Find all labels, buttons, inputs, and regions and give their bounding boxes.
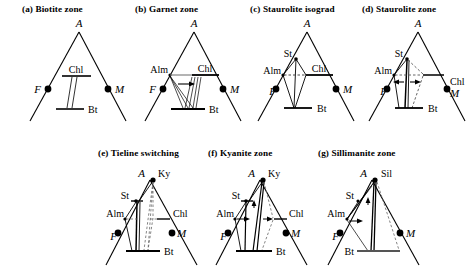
- panel-b-tag: (b): [135, 4, 149, 14]
- label-apex-a: A: [75, 17, 83, 29]
- panel-a-diagram: A F M Chl Bt: [22, 16, 132, 128]
- label-f: F: [331, 230, 339, 242]
- chl-bt-tieline: [295, 75, 306, 108]
- label-alm: Alm: [150, 64, 168, 75]
- label-apex-a: A: [414, 17, 422, 29]
- tieline: [67, 77, 72, 108]
- tieline: [170, 76, 193, 108]
- sil-point: [372, 177, 377, 182]
- panel-g-title-text: Sillimanite zone: [331, 148, 395, 158]
- label-m: M: [290, 227, 301, 239]
- tieline: [185, 77, 192, 108]
- st-bt-tieline: [405, 60, 407, 108]
- label-f: F: [109, 230, 117, 242]
- label-m: M: [405, 227, 416, 239]
- label-st: St: [232, 190, 241, 201]
- panel-e-diagram: A Ky St Alm F Chl M Bt: [98, 160, 210, 272]
- chl-bt-dashed-tieline: [262, 220, 273, 250]
- label-st: St: [395, 48, 404, 59]
- leg-right: [150, 180, 197, 265]
- reaction-arrow-left-head: [244, 217, 250, 222]
- panel-f-title: (f) Kyanite zone: [208, 148, 272, 158]
- panel-c-title-text: Staurolite isograd: [263, 4, 335, 14]
- label-m: M: [449, 87, 460, 99]
- panel-d-tag: (d): [362, 4, 376, 14]
- st-bt-tieline: [136, 202, 137, 251]
- sil-bt-tieline: [371, 182, 374, 251]
- panel-c-tag: (c): [250, 4, 263, 14]
- label-bt: Bt: [345, 246, 355, 257]
- label-apex-a: A: [247, 167, 255, 179]
- label-alm: Alm: [374, 65, 392, 76]
- st-bt-tieline: [139, 202, 140, 251]
- label-apex-a: A: [190, 17, 198, 29]
- label-chl: Chl: [69, 64, 84, 75]
- label-alm: Alm: [216, 208, 234, 219]
- panel-g-title: (g) Sillimanite zone: [318, 148, 396, 158]
- st-chl-tieline: [296, 59, 306, 75]
- label-bt: Bt: [317, 103, 327, 114]
- panel-c-diagram: A St Alm F M Chl Bt: [250, 16, 362, 128]
- label-f: F: [268, 85, 276, 97]
- label-ky: Ky: [158, 168, 170, 179]
- label-bt: Bt: [428, 103, 438, 114]
- panel-g-diagram: A Sil St Alm F M Bt: [318, 160, 438, 272]
- label-alm: Alm: [327, 208, 345, 219]
- label-bt: Bt: [164, 246, 174, 257]
- panel-d-title: (d) Staurolite zone: [362, 4, 436, 14]
- vertex-dot-m: [220, 86, 227, 93]
- reaction-arrow-left-head: [393, 79, 399, 84]
- vertex-dot-m: [105, 86, 112, 93]
- chl-bt-dashed-tieline: [148, 218, 153, 250]
- st-bt-tieline: [294, 59, 296, 108]
- label-apex-a: A: [359, 167, 367, 179]
- panel-e-title-text: Tieline switching: [111, 148, 179, 158]
- panel-e-title: (e) Tieline switching: [98, 148, 179, 158]
- label-m: M: [342, 83, 353, 95]
- label-f: F: [33, 83, 41, 95]
- label-sil: Sil: [381, 168, 392, 179]
- ky-point: [150, 177, 155, 182]
- vertex-dot-m: [283, 230, 290, 237]
- alm-bt-tieline: [125, 219, 132, 251]
- label-alm: Alm: [106, 208, 124, 219]
- label-m: M: [176, 227, 187, 239]
- alm-bt-tieline: [235, 219, 241, 251]
- label-bt: Bt: [88, 104, 98, 115]
- alm-bt-tieline: [283, 75, 294, 108]
- label-st: St: [284, 48, 293, 59]
- tieline: [72, 77, 77, 108]
- reaction-arrow-right-head: [267, 217, 273, 222]
- label-chl: Chl: [289, 208, 304, 219]
- st-alm-tieline: [394, 59, 407, 75]
- panel-f-title-text: Kyanite zone: [220, 148, 273, 158]
- label-f: F: [219, 230, 227, 242]
- ky-point: [260, 177, 265, 182]
- panel-g-tag: (g): [318, 148, 331, 158]
- ky-bt-dashed-tieline: [148, 182, 153, 250]
- tieline: [196, 77, 201, 108]
- label-f: F: [379, 85, 387, 97]
- label-chl: Chl: [173, 208, 188, 219]
- panel-d-diagram: A St Alm F Chl M Bt: [362, 16, 472, 128]
- label-bt: Bt: [276, 246, 286, 257]
- label-f: F: [148, 83, 156, 95]
- leg-right: [307, 32, 354, 121]
- label-chl: Chl: [450, 76, 465, 87]
- ky-st-tieline: [139, 181, 153, 201]
- sil-bt-tieline: [374, 182, 376, 251]
- sil-m-dashed-tieline: [377, 182, 399, 250]
- label-ky: Ky: [268, 168, 280, 179]
- label-chl: Chl: [198, 63, 213, 74]
- st-bt-tieline: [408, 60, 409, 108]
- tieline: [170, 76, 188, 108]
- reaction-arrow-st-head: [366, 197, 371, 203]
- label-apex-a: A: [303, 17, 311, 29]
- tieline: [170, 76, 183, 108]
- label-alm: Alm: [263, 65, 281, 76]
- label-bt: Bt: [209, 104, 219, 115]
- reaction-arrow-right-head: [415, 79, 421, 84]
- vertex-dot-m: [397, 230, 404, 237]
- panel-f-diagram: A Ky St Alm F Chl M Bt: [208, 160, 320, 272]
- panel-b-title-text: Garnet zone: [149, 4, 198, 14]
